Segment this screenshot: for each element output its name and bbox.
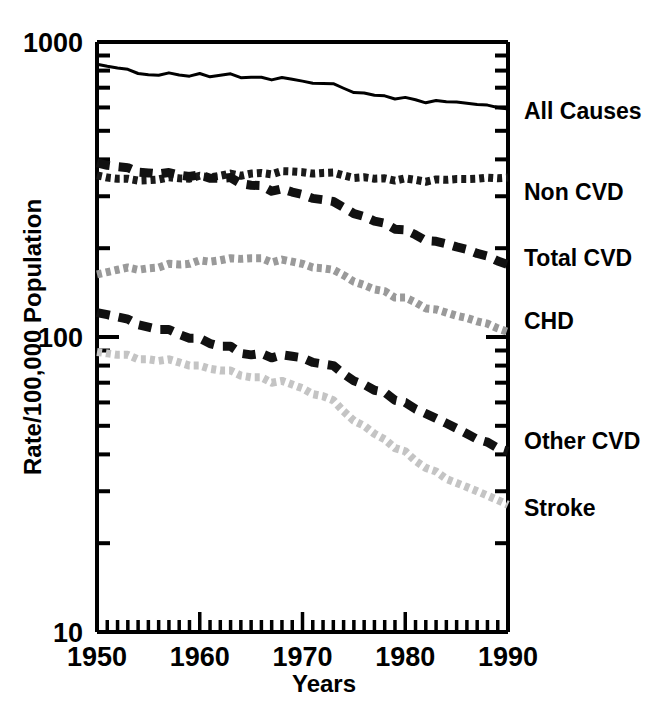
x-tick-label: 1950 <box>67 642 127 672</box>
y-tick-label: 1000 <box>23 28 83 58</box>
x-tick-label: 1980 <box>375 642 435 672</box>
chart-svg: 100010010 19501960197019801990 All Cause… <box>0 0 649 707</box>
x-tick-label: 1970 <box>272 642 332 672</box>
x-tick-label: 1960 <box>170 642 230 672</box>
x-axis-title: Years <box>292 670 356 697</box>
series-label-other-cvd: Other CVD <box>524 428 640 454</box>
series-label-chd: CHD <box>524 308 574 334</box>
chart-figure: 100010010 19501960197019801990 All Cause… <box>0 0 649 707</box>
x-tick-label: 1990 <box>478 642 538 672</box>
series-label-non-cvd: Non CVD <box>524 179 624 205</box>
series-label-all-causes: All Causes <box>524 98 642 124</box>
series-label-total-cvd: Total CVD <box>524 245 632 271</box>
y-axis-title: Rate/100,000 Population <box>19 199 46 475</box>
series-label-stroke: Stroke <box>524 495 596 521</box>
